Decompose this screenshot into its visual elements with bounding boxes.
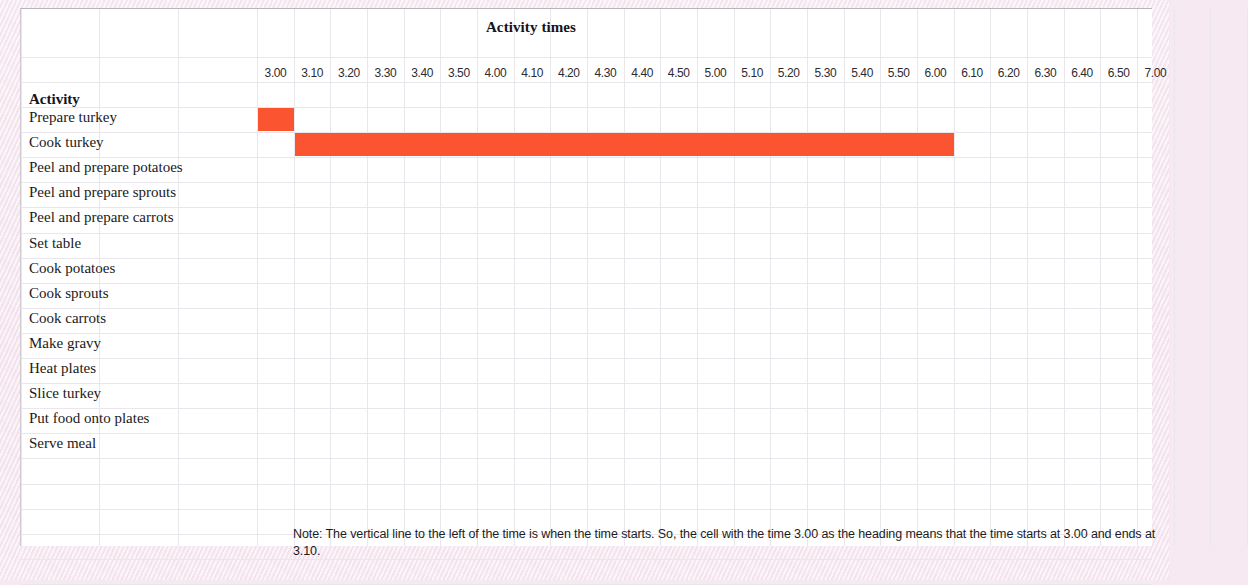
time-tick-label: 6.30 (1027, 66, 1064, 80)
activity-row-label: Cook sprouts (29, 285, 109, 302)
time-tick-label: 7.00 (1137, 66, 1174, 80)
time-tick-label: 4.00 (477, 66, 514, 80)
time-tick-label: 6.10 (954, 66, 991, 80)
activity-row-label: Peel and prepare carrots (29, 209, 174, 226)
time-tick-label: 6.20 (990, 66, 1027, 80)
time-tick-label: 3.20 (330, 66, 367, 80)
activity-row-label: Slice turkey (29, 385, 101, 402)
time-tick-label: 5.00 (697, 66, 734, 80)
time-tick-label: 6.40 (1064, 66, 1101, 80)
time-tick-label: 3.10 (294, 66, 331, 80)
time-tick-label: 5.20 (770, 66, 807, 80)
activity-row-label: Set table (29, 235, 81, 252)
activity-row-label: Peel and prepare sprouts (29, 184, 176, 201)
time-tick-label: 3.30 (367, 66, 404, 80)
page-title: Activity times (431, 19, 631, 36)
gantt-bar (295, 133, 954, 156)
time-tick-label: 4.20 (550, 66, 587, 80)
activity-row-label: Make gravy (29, 335, 101, 352)
activity-row-label: Cook potatoes (29, 260, 115, 277)
time-tick-label: 5.10 (734, 66, 771, 80)
time-tick-label: 4.40 (624, 66, 661, 80)
chart-content: Activity times 3.003.103.203.303.403.504… (21, 9, 1152, 546)
activity-row-label: Heat plates (29, 360, 96, 377)
activity-column-header: Activity (29, 91, 80, 108)
time-tick-label: 4.30 (587, 66, 624, 80)
time-tick-label: 6.50 (1100, 66, 1137, 80)
activity-row-label: Put food onto plates (29, 410, 149, 427)
time-tick-label: 5.50 (880, 66, 917, 80)
time-tick-label: 6.00 (917, 66, 954, 80)
time-tick-label: 3.00 (257, 66, 294, 80)
time-tick-label: 5.40 (844, 66, 881, 80)
activity-row-label: Cook carrots (29, 310, 106, 327)
activity-row-label: Cook turkey (29, 134, 104, 151)
worksheet-sheet: Activity times 3.003.103.203.303.403.504… (20, 8, 1152, 546)
gantt-bar (258, 108, 294, 131)
activity-row-label: Peel and prepare potatoes (29, 159, 183, 176)
activity-row-label: Serve meal (29, 435, 96, 452)
time-tick-label: 4.50 (660, 66, 697, 80)
activity-row-label: Prepare turkey (29, 109, 117, 126)
time-tick-label: 4.10 (514, 66, 551, 80)
time-tick-label: 5.30 (807, 66, 844, 80)
time-tick-label: 3.50 (440, 66, 477, 80)
chart-note: Note: The vertical line to the left of t… (293, 526, 1159, 560)
time-tick-label: 3.40 (404, 66, 441, 80)
